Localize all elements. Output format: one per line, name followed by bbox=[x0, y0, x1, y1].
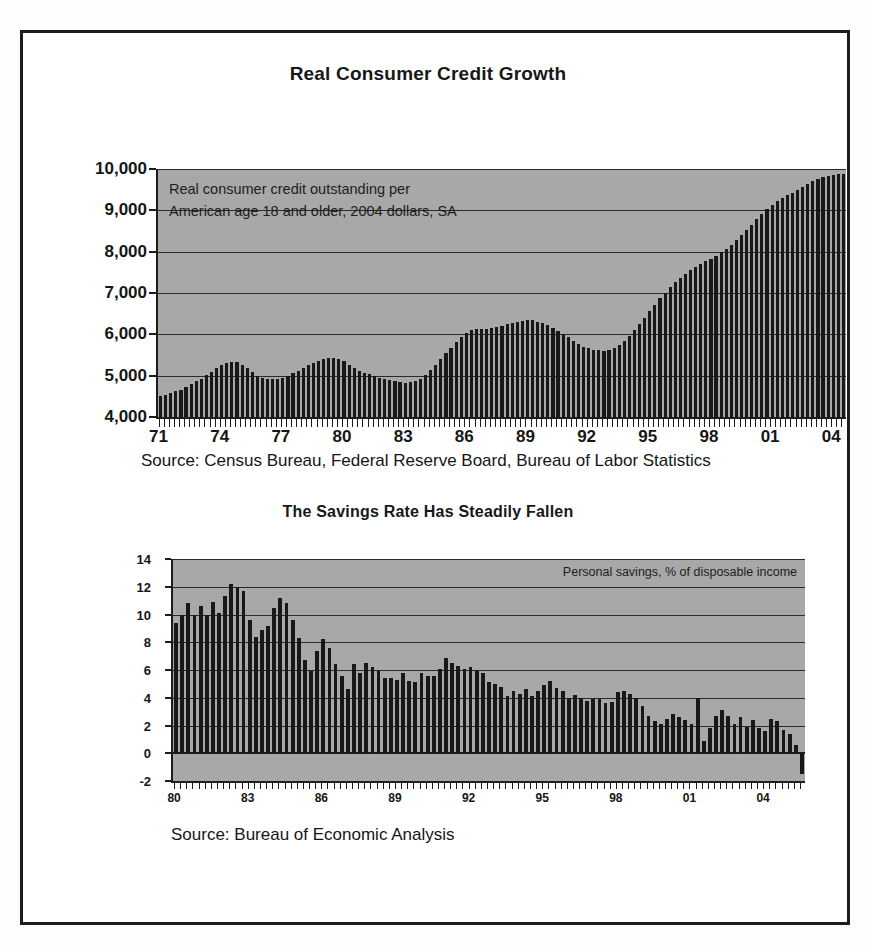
bar bbox=[217, 613, 221, 753]
chart2-annotation: Personal savings, % of disposable income bbox=[175, 563, 797, 582]
bar bbox=[260, 630, 264, 753]
chart1-x-tick-mark bbox=[663, 419, 664, 427]
chart1-x-tick-mark bbox=[383, 419, 384, 427]
chart1-annotation-line1: Real consumer credit outstanding per bbox=[169, 181, 410, 197]
chart2-y-tick-mark bbox=[165, 697, 171, 699]
bar bbox=[653, 721, 657, 753]
bar bbox=[383, 678, 387, 753]
bar bbox=[419, 379, 422, 417]
chart1-x-tick-mark bbox=[342, 419, 343, 427]
bar bbox=[755, 219, 758, 417]
chart1-x-tick-label: 01 bbox=[750, 427, 790, 447]
chart1-x-tick-mark bbox=[281, 419, 282, 427]
bar bbox=[169, 393, 172, 417]
chart1-x-tick-label: 80 bbox=[322, 427, 362, 447]
chart2-x-tick-mark bbox=[530, 783, 531, 789]
bar bbox=[200, 379, 203, 417]
chart2-x-tick-mark bbox=[720, 783, 721, 789]
bar bbox=[444, 658, 448, 754]
bar bbox=[190, 384, 193, 417]
bar bbox=[671, 714, 675, 753]
chart-real-consumer-credit-growth: Real Consumer Credit Growth 10,0009,0008… bbox=[23, 63, 853, 493]
chart1-x-tick-mark bbox=[164, 419, 165, 427]
bar bbox=[521, 321, 524, 417]
bar bbox=[512, 691, 516, 753]
bar bbox=[485, 329, 488, 417]
chart2-y-tick-label: 8 bbox=[79, 635, 151, 650]
bar bbox=[199, 606, 203, 753]
bar bbox=[352, 664, 356, 753]
chart1-x-tick-mark bbox=[592, 419, 593, 427]
page-canvas: Real Consumer Credit Growth 10,0009,0008… bbox=[0, 0, 872, 952]
bar bbox=[643, 318, 646, 417]
chart2-x-tick-mark bbox=[665, 783, 666, 789]
chart1-y-tick-label: 8,000 bbox=[61, 242, 147, 262]
chart2-x-tick-mark bbox=[285, 783, 286, 789]
chart1-x-tick-mark bbox=[709, 419, 710, 427]
chart1-x-tick-mark bbox=[699, 419, 700, 427]
chart1-x-tick-mark bbox=[653, 419, 654, 427]
chart1-x-tick-mark bbox=[505, 419, 506, 427]
chart2-bars-container bbox=[173, 559, 805, 781]
bar bbox=[358, 673, 362, 753]
bar bbox=[487, 682, 491, 753]
chart1-x-tick-mark bbox=[622, 419, 623, 427]
chart1-x-tick-mark bbox=[378, 419, 379, 427]
bar bbox=[669, 287, 672, 417]
bar bbox=[745, 727, 749, 753]
chart2-x-tick-mark bbox=[426, 783, 427, 789]
bar bbox=[800, 753, 804, 774]
chart2-x-tick-mark bbox=[278, 783, 279, 789]
bar bbox=[499, 687, 503, 754]
chart1-x-tick-mark bbox=[740, 419, 741, 427]
chart1-x-tick-mark bbox=[790, 419, 791, 427]
bar bbox=[220, 365, 223, 417]
chart1-x-tick-mark bbox=[398, 419, 399, 427]
bar bbox=[842, 174, 845, 417]
chart1-x-tick-mark bbox=[689, 419, 690, 427]
bar bbox=[353, 368, 356, 417]
chart1-x-tick-mark bbox=[673, 419, 674, 427]
bar bbox=[327, 358, 330, 417]
bar bbox=[364, 663, 368, 753]
chart2-x-tick-mark bbox=[640, 783, 641, 789]
bar bbox=[587, 348, 590, 417]
chart2-x-tick-mark bbox=[456, 783, 457, 789]
bar bbox=[444, 353, 447, 417]
bar bbox=[604, 703, 608, 753]
bar bbox=[475, 329, 478, 417]
chart1-x-tick-mark bbox=[301, 419, 302, 427]
chart2-gridline bbox=[173, 559, 805, 560]
chart1-x-tick-mark bbox=[454, 419, 455, 427]
chart1-x-tick-mark bbox=[245, 419, 246, 427]
chart1-x-tick-mark bbox=[169, 419, 170, 427]
chart2-x-tick-mark bbox=[579, 783, 580, 789]
chart2-y-tick-label: 10 bbox=[79, 607, 151, 622]
bar bbox=[469, 667, 473, 753]
bar bbox=[592, 350, 595, 417]
bar bbox=[223, 596, 227, 753]
bar bbox=[531, 320, 534, 417]
bar bbox=[616, 692, 620, 753]
bar bbox=[332, 358, 335, 417]
bar bbox=[309, 671, 313, 753]
chart2-x-tick-mark bbox=[254, 783, 255, 789]
chart2-x-tick-mark bbox=[708, 783, 709, 789]
chart1-y-tick-label: 9,000 bbox=[61, 200, 147, 220]
bar bbox=[751, 720, 755, 753]
chart2-x-tick-mark bbox=[180, 783, 181, 789]
bar bbox=[709, 259, 712, 417]
bar bbox=[796, 190, 799, 417]
chart1-x-tick-mark bbox=[464, 419, 465, 427]
chart1-x-tick-mark bbox=[296, 419, 297, 427]
chart1-x-tick-mark bbox=[485, 419, 486, 427]
chart1-x-tick-mark bbox=[413, 419, 414, 427]
bar bbox=[771, 205, 774, 417]
chart1-x-tick-mark bbox=[531, 419, 532, 427]
bar bbox=[548, 681, 552, 753]
chart1-x-tick-mark bbox=[561, 419, 562, 427]
bar bbox=[699, 264, 702, 417]
bar bbox=[317, 361, 320, 417]
chart1-x-tick-mark bbox=[745, 419, 746, 427]
chart1-x-tick-mark bbox=[658, 419, 659, 427]
